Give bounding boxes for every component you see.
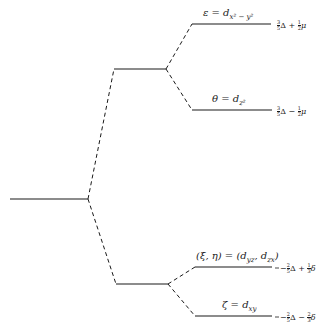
label-theta: θ = dz² (212, 94, 246, 107)
connector (168, 284, 195, 316)
energy-level-diagram (0, 0, 318, 327)
energy-xi-eta: −25Δ + 13δ (280, 263, 315, 274)
energy-theta: 35Δ − 12μ (277, 106, 306, 117)
connector (166, 24, 192, 69)
label-epsilon: ε = dx² − y² (203, 8, 253, 21)
connector (166, 69, 192, 110)
connector (168, 267, 195, 284)
label-zeta: ζ = dxy (222, 300, 256, 313)
connector (88, 69, 114, 199)
connector (88, 199, 116, 284)
label-xi-eta: (ξ, η) = (dyz, dzx) (196, 251, 279, 264)
energy-zeta: −25Δ − 23δ (280, 312, 315, 323)
energy-epsilon: 35Δ + 12μ (277, 20, 306, 31)
